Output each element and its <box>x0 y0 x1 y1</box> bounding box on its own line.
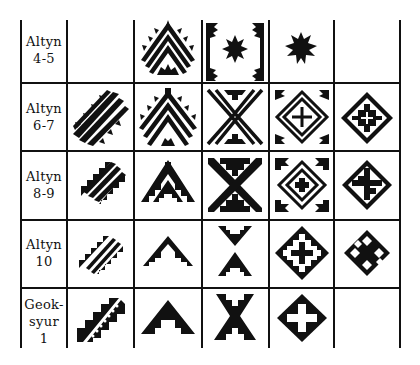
motif-comparison-table: Altyn 4-5 Altyn 6-7 Altyn 8-9 Altyn 10 G… <box>0 0 420 365</box>
grid-line <box>333 20 335 348</box>
grid-line <box>66 20 68 348</box>
grid-line <box>201 20 203 348</box>
motif-concentric-diamond-with-cross <box>271 86 333 148</box>
motif-diamond-with-stepped-cross <box>336 154 398 216</box>
motif-hatched-x-with-stepped-triangles <box>204 86 266 148</box>
label-line: 1 <box>22 330 66 347</box>
row-label-altyn-6-7: Altyn 6-7 <box>22 100 66 134</box>
motif-opposed-stepped-chevrons <box>204 222 266 284</box>
motif-stepped-x-cross <box>204 154 266 216</box>
motif-hatched-chevron-serrated <box>137 86 199 148</box>
row-label-altyn-10: Altyn 10 <box>22 236 66 270</box>
label-line: Altyn <box>22 100 66 117</box>
label-line: syur <box>22 313 66 330</box>
row-label-altyn-8-9: Altyn 8-9 <box>22 168 66 202</box>
row-label-altyn-4-5: Altyn 4-5 <box>22 33 66 67</box>
motif-diamond-with-white-cross <box>271 290 333 346</box>
motif-hatched-diagonal-band-stepped <box>69 154 131 216</box>
label-line: 10 <box>22 253 66 270</box>
motif-hatched-diagonal-band-serrated <box>69 86 131 148</box>
grid-line <box>133 20 135 348</box>
motif-double-line-diagonal-stepped <box>69 222 131 284</box>
label-line: Altyn <box>22 168 66 185</box>
motif-framed-star-with-corner-teeth <box>204 21 266 81</box>
motif-serrated-diamond-with-cross <box>271 154 333 216</box>
grid-line <box>20 287 401 289</box>
motif-stepped-chevron-with-inner-steps <box>137 154 199 216</box>
label-line: 6-7 <box>22 117 66 134</box>
motif-solid-x-cross <box>204 290 266 346</box>
grid-line <box>268 20 270 348</box>
motif-small-spiky-star <box>271 22 331 78</box>
motif-solid-stepped-chevron-large <box>137 290 199 346</box>
row-label-geoksyur-1: Geok- syur 1 <box>22 296 66 347</box>
label-line: 8-9 <box>22 185 66 202</box>
label-line: Altyn <box>22 33 66 50</box>
motif-dotted-diagonal-stepped-band <box>69 290 131 346</box>
grid-line <box>20 82 401 84</box>
motif-diamond-with-cross <box>336 222 398 284</box>
motif-diamond-with-stepped-cross-frame <box>271 222 333 284</box>
label-line: 4-5 <box>22 50 66 67</box>
motif-stepped-diamond-with-inner-cross <box>336 88 398 148</box>
motif-solid-stepped-chevron <box>137 222 199 284</box>
label-line: Geok- <box>22 296 66 313</box>
grid-line <box>399 20 401 348</box>
label-line: Altyn <box>22 236 66 253</box>
grid-line <box>20 219 401 221</box>
motif-hatched-chevron-with-sunburst <box>137 20 199 80</box>
grid-line <box>20 150 401 152</box>
